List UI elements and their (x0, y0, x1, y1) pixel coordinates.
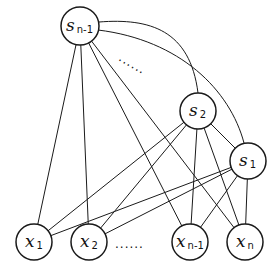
edge-s_n-1-x_1 (34, 26, 80, 242)
node-x_n-1: xn-1 (172, 224, 208, 260)
node-circle (230, 143, 266, 179)
edge-s_n-1-x_n (80, 26, 245, 242)
curved-edge-s_n-1-s_1 (98, 30, 244, 143)
edge-s_n-1-x_2 (80, 26, 89, 242)
edge-s_1-x_2 (89, 161, 248, 242)
node-x_n: xn (227, 224, 263, 260)
node-x_1: x1 (16, 224, 52, 260)
ellipsis-hidden-x-nodes: ...... (115, 237, 144, 251)
edge-s_2-x_1 (34, 111, 198, 242)
node-circle (180, 93, 216, 129)
graph-svg: ............ sn-1s2s1x1x2xn-1xn (0, 0, 275, 272)
edge-s_1-x_1 (34, 161, 248, 242)
edge-s_2-x_2 (89, 111, 198, 242)
edges-layer (34, 21, 248, 242)
edge-s_2-x_n-1 (190, 111, 198, 242)
nodes-layer: sn-1s2s1x1x2xn-1xn (16, 7, 266, 260)
node-s_n-1: sn-1 (61, 7, 99, 45)
graph-diagram: ............ sn-1s2s1x1x2xn-1xn (0, 0, 275, 272)
ellipsis-hidden-s-nodes: ...... (117, 50, 149, 77)
node-x_2: x2 (71, 224, 107, 260)
node-s_2: s2 (180, 93, 216, 129)
node-s_1: s1 (230, 143, 266, 179)
